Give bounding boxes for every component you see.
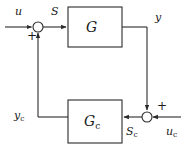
signal-label-uc-subscript: c xyxy=(173,130,177,139)
signal-label-yc-subscript: c xyxy=(20,114,24,123)
controller-block-label: Gc xyxy=(84,114,100,128)
plant-block-symbol: G xyxy=(86,19,97,35)
block-diagram: G Gc u S y yc Sc uc + + xyxy=(0,0,185,148)
signal-label-u-text: u xyxy=(15,5,22,18)
signal-label-Sc-text: S xyxy=(126,125,134,138)
plant-block-label: G xyxy=(86,20,97,34)
controller-block-symbol: G xyxy=(84,113,95,129)
signal-label-Sc: Sc xyxy=(126,126,138,137)
signal-label-y-text: y xyxy=(155,11,161,24)
summing-junction-bottom-right xyxy=(142,112,152,122)
controller-block-subscript: c xyxy=(95,121,100,131)
signal-label-Sc-subscript: c xyxy=(134,130,138,139)
plus-sign-bottom-right: + xyxy=(157,100,167,112)
plus-sign-top-left: + xyxy=(27,30,37,42)
signal-label-u: u xyxy=(15,6,22,17)
signal-label-S-text: S xyxy=(51,5,59,18)
signal-label-y: y xyxy=(155,12,161,23)
signal-label-uc: uc xyxy=(166,126,177,137)
signal-label-yc: yc xyxy=(14,110,24,121)
signal-label-S: S xyxy=(51,6,59,17)
